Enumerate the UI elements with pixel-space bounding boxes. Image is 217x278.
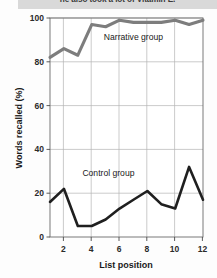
- y-tick-label: 40: [35, 144, 45, 154]
- x-tick-label: 4: [89, 244, 94, 254]
- x-tick-label: 12: [198, 244, 208, 254]
- y-tick-label: 100: [30, 13, 44, 23]
- y-tick-label: 0: [39, 232, 44, 242]
- figure-container: he also took a lot of Vitamin E.: [0, 0, 217, 278]
- line-chart: 100 80 60 40 20 0 2 4 6 8 10 12 List pos…: [0, 0, 217, 278]
- x-tick-label: 10: [170, 244, 180, 254]
- y-axis-title: Words recalled (%): [14, 88, 24, 169]
- series-label-control-group: Control group: [82, 168, 134, 178]
- x-axis-tick-labels: 2 4 6 8 10 12: [61, 244, 207, 254]
- series-label-narrative-group: Narrative group: [104, 32, 163, 42]
- x-tick-label: 2: [61, 244, 66, 254]
- y-axis-ticks: [47, 18, 51, 237]
- y-tick-label: 20: [35, 188, 45, 198]
- y-tick-label: 60: [35, 101, 45, 111]
- x-tick-label: 6: [117, 244, 122, 254]
- y-axis-tick-labels: 100 80 60 40 20 0: [30, 13, 44, 242]
- x-axis-title: List position: [99, 260, 153, 270]
- y-tick-label: 80: [35, 57, 45, 67]
- x-axis-ticks: [63, 237, 202, 241]
- x-tick-label: 8: [144, 244, 149, 254]
